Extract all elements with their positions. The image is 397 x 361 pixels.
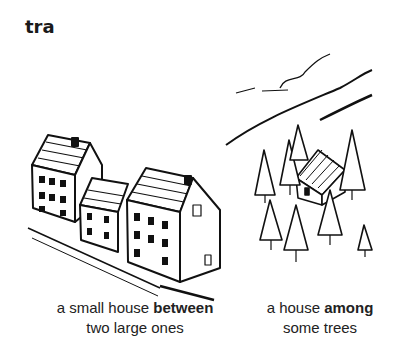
caption-keyword: between <box>153 299 213 316</box>
caption-text: some trees <box>283 319 357 336</box>
caption-keyword: among <box>324 299 373 316</box>
caption-text: a small house <box>57 299 154 316</box>
caption-among: a house among some trees <box>245 298 395 338</box>
caption-between: a small house between two large ones <box>20 298 250 338</box>
caption-text: a house <box>267 299 325 316</box>
caption-text: two large ones <box>86 319 184 336</box>
